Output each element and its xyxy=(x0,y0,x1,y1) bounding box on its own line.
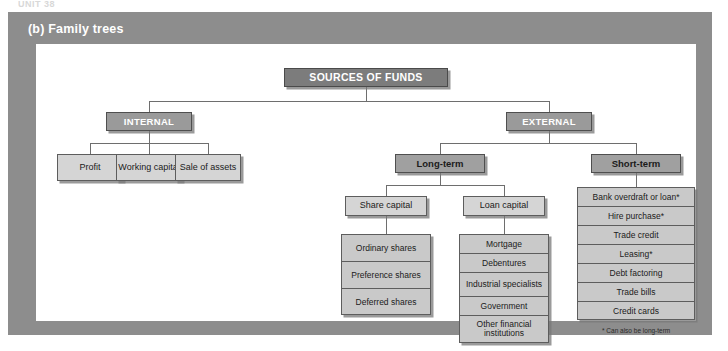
node-external[interactable]: EXTERNAL xyxy=(506,112,592,131)
node-label: Long-term xyxy=(417,159,464,169)
list-item[interactable]: Trade credit xyxy=(578,226,694,245)
list-item[interactable]: Bank overdraft or loan* xyxy=(578,188,694,207)
node-loan-capital[interactable]: Loan capital xyxy=(463,196,545,216)
figure-frame: (b) Family trees xyxy=(8,12,712,335)
list-item[interactable]: Trade bills xyxy=(578,283,694,302)
list-item-label: Preference shares xyxy=(351,271,420,280)
stack-loan-capital: Mortgage Debentures Industrial specialis… xyxy=(459,234,549,343)
node-long-term[interactable]: Long-term xyxy=(395,154,485,173)
node-label: Working capital xyxy=(118,163,179,172)
node-label: Short-term xyxy=(612,159,661,169)
list-item[interactable]: Hire purchase* xyxy=(578,207,694,226)
stack-short-term: Bank overdraft or loan* Hire purchase* T… xyxy=(577,187,695,320)
list-item[interactable]: Leasing* xyxy=(578,245,694,264)
panel-label: (b) Family trees xyxy=(28,22,124,36)
list-item-label: Deferred shares xyxy=(356,298,417,307)
node-label: Share capital xyxy=(360,201,413,210)
node-internal[interactable]: INTERNAL xyxy=(106,112,192,131)
diagram-stage: SOURCES OF FUNDS INTERNAL EXTERNAL Profi… xyxy=(36,44,696,321)
list-item[interactable]: Debt factoring xyxy=(578,264,694,283)
node-short-term[interactable]: Short-term xyxy=(591,154,681,173)
footnote: * Can also be long-term xyxy=(602,327,670,334)
list-item-label: Credit cards xyxy=(613,307,659,316)
list-item[interactable]: Preference shares xyxy=(342,262,430,289)
node-label: SOURCES OF FUNDS xyxy=(309,72,422,83)
list-item[interactable]: Debentures xyxy=(460,254,548,273)
node-profit[interactable]: Profit xyxy=(57,154,123,181)
node-sources-of-funds[interactable]: SOURCES OF FUNDS xyxy=(284,68,448,87)
list-item-label: Debentures xyxy=(482,259,526,268)
list-item-label: Trade credit xyxy=(613,231,658,240)
list-item[interactable]: Mortgage xyxy=(460,235,548,254)
node-share-capital[interactable]: Share capital xyxy=(345,196,427,216)
node-label: INTERNAL xyxy=(124,117,174,127)
list-item[interactable]: Deferred shares xyxy=(342,289,430,316)
list-item[interactable]: Industrial specialists xyxy=(460,273,548,297)
node-label: Sale of assets xyxy=(180,163,237,172)
node-label: EXTERNAL xyxy=(522,117,576,127)
list-item-label: Debt factoring xyxy=(610,269,663,278)
node-sale-of-assets[interactable]: Sale of assets xyxy=(175,154,241,181)
list-item-label: Leasing* xyxy=(619,250,652,259)
list-item-label: Ordinary shares xyxy=(356,244,416,253)
node-label: Loan capital xyxy=(480,201,529,210)
list-item-label: Industrial specialists xyxy=(466,280,542,289)
list-item[interactable]: Ordinary shares xyxy=(342,235,430,262)
running-head: UNIT 38 xyxy=(18,0,55,8)
list-item[interactable]: Government xyxy=(460,297,548,316)
list-item-label: Bank overdraft or loan* xyxy=(593,193,680,202)
node-working-capital[interactable]: Working capital xyxy=(116,154,182,181)
list-item-label: Mortgage xyxy=(486,240,522,249)
diagram-canvas: SOURCES OF FUNDS INTERNAL EXTERNAL Profi… xyxy=(36,44,696,321)
list-item[interactable]: Credit cards xyxy=(578,302,694,321)
list-item-label: Hire purchase* xyxy=(608,212,664,221)
list-item[interactable]: Other financial institutions xyxy=(460,316,548,342)
list-item-label: Other financial institutions xyxy=(462,320,546,338)
node-label: Profit xyxy=(79,163,100,172)
list-item-label: Trade bills xyxy=(617,288,656,297)
list-item-label: Government xyxy=(481,302,528,311)
stack-share-capital: Ordinary shares Preference shares Deferr… xyxy=(341,234,431,315)
